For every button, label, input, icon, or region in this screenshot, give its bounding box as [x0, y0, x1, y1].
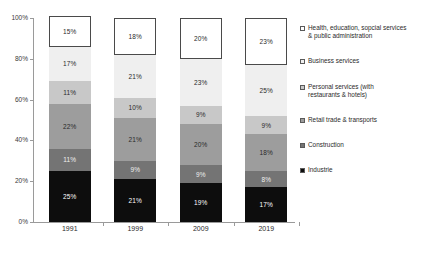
y-axis-tick-label: 0%: [2, 218, 28, 225]
bar-segment: 23%: [245, 18, 287, 65]
x-axis-tick-label: 1999: [105, 225, 165, 232]
x-axis-tick-mark: [103, 222, 104, 226]
bar-segment: 9%: [180, 106, 222, 124]
bar-segment-value: 20%: [194, 141, 207, 148]
bar-segment-value: 9%: [196, 111, 206, 118]
legend-swatch-icon: [300, 26, 305, 31]
bar-segment: 8%: [245, 171, 287, 187]
plot-area: 0%20%40%60%80%100% 25%11%22%11%17%15%21%…: [33, 18, 295, 223]
y-axis-tick-label: 80%: [2, 55, 28, 62]
x-axis-line: [33, 222, 295, 223]
legend-item[interactable]: Industrie: [300, 166, 426, 174]
bar-segment: 9%: [114, 161, 156, 179]
legend-swatch-icon: [300, 143, 305, 148]
y-axis-tick-mark: [30, 140, 34, 141]
bar-segment: 25%: [49, 171, 91, 222]
bar-segment-value: 23%: [194, 79, 207, 86]
legend-swatch-icon: [300, 168, 305, 173]
bar-segment-value: 9%: [196, 171, 206, 178]
legend-item-label: Business services: [308, 57, 359, 65]
bar-segment-value: 23%: [260, 38, 273, 45]
legend-item-label: Industrie: [308, 166, 333, 174]
bar-1999[interactable]: 21%9%21%10%21%18%: [114, 18, 156, 222]
bar-segment: 22%: [49, 104, 91, 149]
bar-segment-value: 18%: [260, 149, 273, 156]
bar-segment-value: 10%: [129, 104, 142, 111]
y-axis-tick-mark: [30, 100, 34, 101]
legend-item[interactable]: Health, education, sopcial services & pu…: [300, 24, 426, 40]
bar-segment: 15%: [49, 16, 91, 47]
x-axis-tick-mark: [299, 222, 300, 226]
legend-item-label: Personal services (with restaurants & ho…: [308, 83, 374, 99]
y-axis-line: [33, 18, 34, 223]
y-axis-tick-mark: [30, 181, 34, 182]
stacked-bar-chart: 0%20%40%60%80%100% 25%11%22%11%17%15%21%…: [0, 0, 427, 256]
y-axis-tick-mark: [30, 222, 34, 223]
bar-segment: 25%: [245, 65, 287, 116]
bar-segment-value: 11%: [63, 156, 76, 163]
bar-segment-value: 21%: [129, 136, 142, 143]
bar-segment: 11%: [49, 149, 91, 171]
legend-item-label: Health, education, sopcial services & pu…: [308, 24, 406, 40]
bar-segment-value: 19%: [194, 199, 207, 206]
bar-segment: 21%: [114, 55, 156, 98]
bar-segment-value: 9%: [130, 166, 140, 173]
y-axis-tick-mark: [30, 59, 34, 60]
bar-segment-value: 22%: [63, 123, 76, 130]
legend-item-label: Retail trade & transports: [308, 116, 377, 124]
legend-swatch-icon: [300, 85, 305, 90]
x-axis-tick-label: 1991: [40, 225, 100, 232]
bar-segment: 21%: [114, 118, 156, 161]
y-axis-tick-label: 60%: [2, 96, 28, 103]
legend-swatch-icon: [300, 59, 305, 64]
bar-2019[interactable]: 17%8%18%9%25%23%: [245, 18, 287, 222]
y-axis-tick-label: 40%: [2, 136, 28, 143]
bar-segment: 10%: [114, 98, 156, 118]
y-axis-tick-label: 20%: [2, 177, 28, 184]
chart-legend: Health, education, sopcial services & pu…: [300, 24, 426, 192]
legend-item-label: Construction: [308, 141, 344, 149]
bar-segment-value: 11%: [63, 89, 76, 96]
bar-segment-value: 21%: [129, 197, 142, 204]
bar-segment: 19%: [180, 183, 222, 222]
y-axis-tick-label: 100%: [2, 14, 28, 21]
bar-segment: 9%: [245, 116, 287, 134]
legend-item[interactable]: Personal services (with restaurants & ho…: [300, 83, 426, 99]
bar-segment-value: 25%: [260, 87, 273, 94]
bar-segment-value: 18%: [129, 33, 142, 40]
bar-segment: 17%: [49, 47, 91, 82]
x-axis-tick-mark: [168, 222, 169, 226]
legend-item[interactable]: Construction: [300, 141, 426, 149]
bar-segment-value: 15%: [63, 28, 76, 35]
bar-segment: 21%: [114, 179, 156, 222]
bar-1991[interactable]: 25%11%22%11%17%15%: [49, 16, 91, 222]
bar-segment: 18%: [245, 134, 287, 171]
bar-segment-value: 25%: [63, 193, 76, 200]
x-axis-tick-mark: [234, 222, 235, 226]
bar-segment: 11%: [49, 81, 91, 103]
bar-segment-value: 9%: [261, 122, 271, 129]
bar-segment-value: 17%: [260, 201, 273, 208]
legend-item[interactable]: Retail trade & transports: [300, 116, 426, 124]
y-axis-tick-mark: [30, 18, 34, 19]
bar-segment: 20%: [180, 124, 222, 165]
x-axis-tick-label: 2019: [236, 225, 296, 232]
bar-segment-value: 17%: [63, 60, 76, 67]
legend-swatch-icon: [300, 118, 305, 123]
bar-segment: 17%: [245, 187, 287, 222]
legend-item[interactable]: Business services: [300, 57, 426, 65]
bar-segment: 23%: [180, 59, 222, 106]
bar-segment-value: 8%: [261, 176, 271, 183]
bar-segment: 18%: [114, 18, 156, 55]
bar-segment-value: 21%: [129, 73, 142, 80]
bar-segment-value: 20%: [194, 35, 207, 42]
bar-segment: 20%: [180, 18, 222, 59]
bar-segment: 9%: [180, 165, 222, 183]
x-axis-tick-label: 2009: [171, 225, 231, 232]
bar-2009[interactable]: 19%9%20%9%23%20%: [180, 18, 222, 222]
